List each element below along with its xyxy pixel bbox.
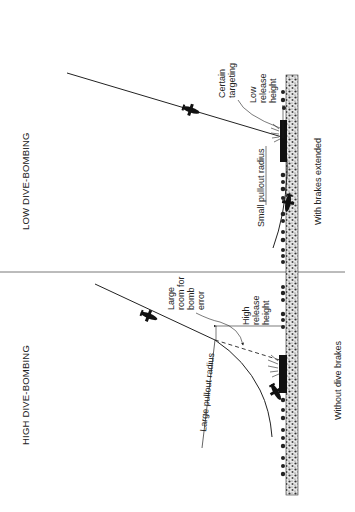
release-label: Low release height	[248, 71, 278, 103]
release-label: High release height	[241, 293, 271, 325]
panel-caption: With brakes extended	[313, 138, 323, 225]
panel-low-dive-bombing: LOW DIVE-BOMBING With brakes extended	[20, 63, 323, 264]
panel-title: HIGH DIVE-BOMBING	[20, 345, 31, 445]
ground-strip	[286, 75, 298, 495]
explosion-icon	[271, 124, 280, 142]
aircraft-icon	[181, 102, 202, 119]
targeting-label: Certain targeting	[217, 63, 237, 98]
pullout-label: Small pullout radius	[256, 148, 266, 227]
panel-caption: Without dive brakes	[333, 340, 343, 420]
pullout-label: Large pullout radius	[198, 352, 216, 432]
panel-title: LOW DIVE-BOMBING	[20, 132, 31, 230]
dive-bombing-diagram: LOW DIVE-BOMBING With brakes extended	[0, 0, 355, 512]
error-label: Large room for bomb error	[166, 274, 206, 310]
error-leader	[196, 313, 243, 345]
trees-icon	[281, 90, 286, 264]
targeting-leader	[238, 100, 280, 128]
target-building	[279, 355, 287, 393]
explosion-icon	[268, 355, 279, 377]
target-building	[280, 120, 287, 162]
